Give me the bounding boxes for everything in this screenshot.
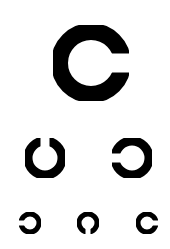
landolt-c-chart bbox=[0, 0, 170, 249]
landolt-ring-up-icon bbox=[28, 141, 62, 175]
landolt-ring-left-icon bbox=[115, 141, 149, 175]
landolt-ring-down-icon bbox=[79, 214, 97, 232]
landolt-ring-right-icon bbox=[60, 32, 123, 95]
landolt-ring-right-icon bbox=[138, 214, 156, 232]
landolt-ring-left-icon bbox=[21, 214, 39, 232]
